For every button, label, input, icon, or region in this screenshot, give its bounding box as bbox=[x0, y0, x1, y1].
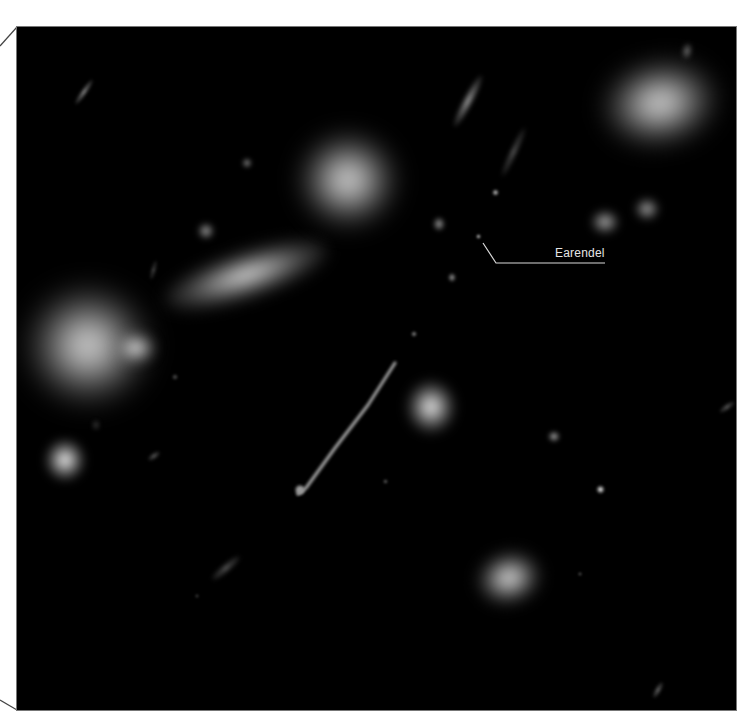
arc-knot bbox=[296, 486, 305, 495]
sunrise-arc bbox=[298, 363, 395, 494]
earendel-label: Earendel bbox=[555, 246, 605, 260]
frame-chamfer-bottom bbox=[0, 700, 17, 710]
deep-field-image: Earendel bbox=[17, 27, 736, 710]
frame-chamfer-top bbox=[0, 27, 17, 46]
lensed-arc bbox=[17, 27, 736, 710]
